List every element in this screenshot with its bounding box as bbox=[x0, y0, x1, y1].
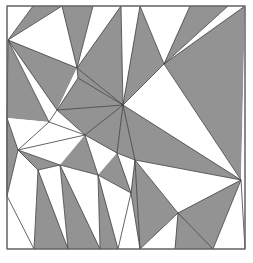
triangulation-figure bbox=[0, 0, 253, 263]
triangulation-canvas bbox=[0, 0, 253, 263]
